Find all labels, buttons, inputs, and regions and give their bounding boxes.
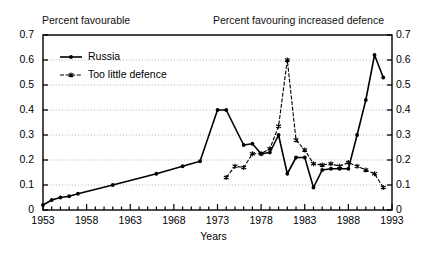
x-axis-tick-label: 1993 (380, 214, 403, 226)
series-marker (59, 196, 63, 200)
x-axis-tick-label: 1953 (31, 214, 54, 226)
x-axis-tick-label: 1973 (206, 214, 229, 226)
y-axis-tick-label-right: 0.1 (396, 178, 411, 190)
legend-item-label: Russia (88, 50, 120, 62)
series-marker (276, 124, 281, 129)
y-axis-tick-label-left: 0.7 (19, 28, 34, 40)
y-axis-tick-label-left: 0.6 (19, 53, 34, 65)
x-axis-tick-label: 1983 (293, 214, 316, 226)
x-axis-tick-label: 1968 (162, 214, 185, 226)
series-marker (294, 156, 298, 160)
series-marker (346, 167, 350, 171)
series-marker (329, 167, 333, 171)
series-marker (302, 147, 307, 152)
series-marker (242, 143, 246, 147)
series-marker (364, 98, 368, 102)
series-marker (111, 183, 115, 187)
series-marker (216, 108, 220, 112)
series-marker (181, 164, 185, 168)
y-axis-tick-label-right: 0.5 (396, 78, 411, 90)
series-marker (277, 133, 281, 137)
series-marker (41, 203, 45, 207)
y-axis-tick-label-left: 0.3 (19, 128, 34, 140)
series-marker (285, 172, 289, 176)
legend-swatch-marker (69, 55, 73, 59)
series-marker (155, 172, 159, 176)
series-marker (363, 167, 368, 172)
series-marker (198, 159, 202, 163)
series-marker (320, 168, 324, 172)
y-axis-tick-label-right: 0.6 (396, 53, 411, 65)
series-marker (381, 76, 385, 80)
series-marker (285, 57, 290, 62)
series-marker (224, 108, 228, 112)
series-marker (76, 192, 80, 196)
x-axis-label: Years (0, 230, 427, 242)
x-axis-tick-label: 1958 (75, 214, 98, 226)
series-marker (251, 142, 255, 146)
series-marker (355, 164, 360, 169)
series-marker (303, 156, 307, 160)
chart-container: Percent favourable Percent favouring inc… (0, 0, 427, 257)
y-axis-tick-label-right: 0.7 (396, 28, 411, 40)
x-axis-tick-label: 1988 (337, 214, 360, 226)
series-marker (312, 186, 316, 190)
series-marker (67, 194, 71, 198)
x-axis-tick-label: 1978 (249, 214, 272, 226)
y-axis-tick-label-left: 0.1 (19, 178, 34, 190)
series-marker (50, 198, 54, 202)
x-axis-tick-label: 1963 (119, 214, 142, 226)
series-marker (355, 133, 359, 137)
y-axis-tick-label-left: 0.5 (19, 78, 34, 90)
y-axis-tick-label-left: 0.4 (19, 103, 34, 115)
y-axis-tick-label-right: 0.3 (396, 128, 411, 140)
y-axis-tick-label-left: 0.2 (19, 153, 34, 165)
y-axis-tick-label-right: 0.4 (396, 103, 411, 115)
series-marker (373, 53, 377, 57)
legend-item-label: Too little defence (88, 68, 167, 80)
y-axis-tick-label-right: 0.2 (396, 153, 411, 165)
